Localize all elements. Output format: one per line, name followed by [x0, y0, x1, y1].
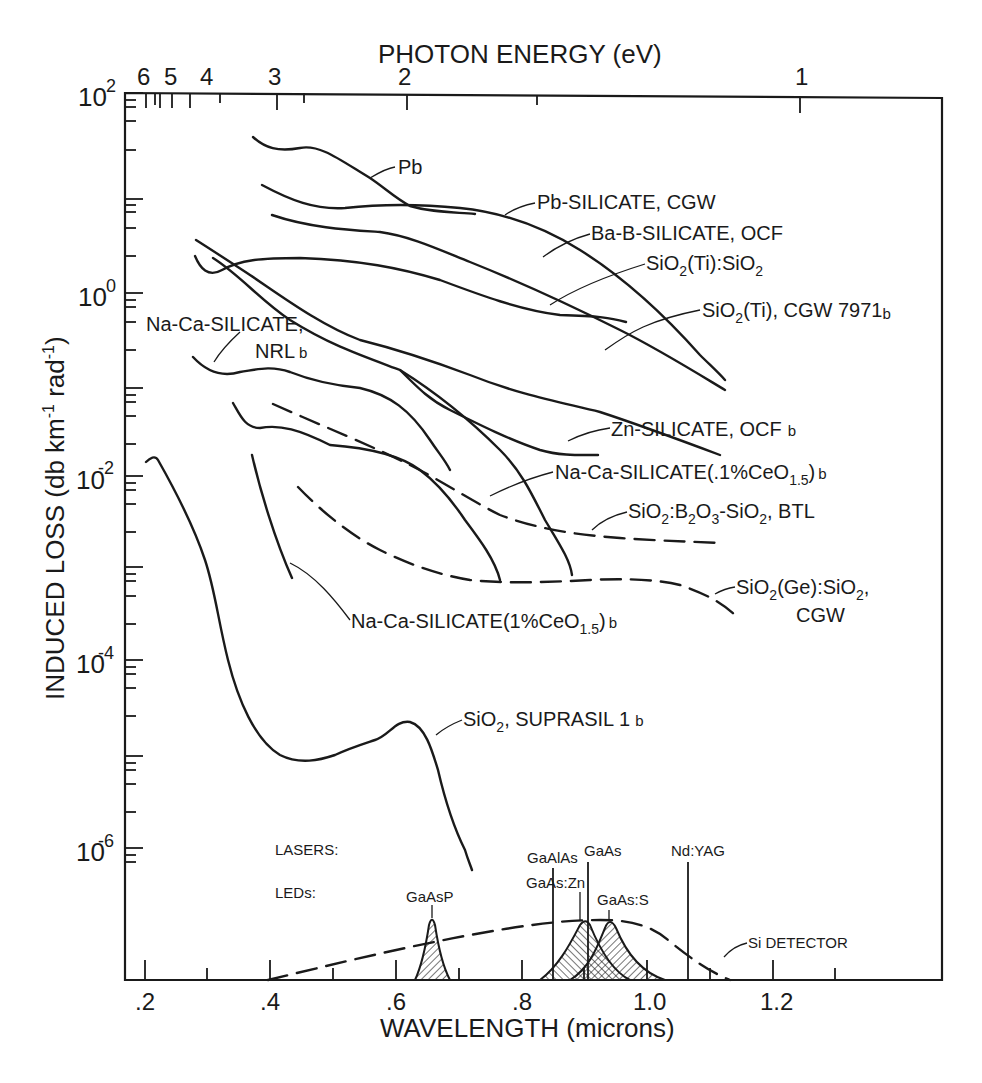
curve-suprasil	[146, 457, 472, 870]
curve-pb	[253, 137, 475, 214]
induced-loss-chart: PHOTON ENERGY (eV) 6 5 4 3 2 1	[0, 0, 982, 1083]
ndyag-label: Nd:YAG	[671, 842, 725, 859]
label-pb-silicate: Pb-SILICATE, CGW	[537, 191, 716, 213]
y-tick-1e-4: 10 -4	[76, 643, 114, 679]
x-tick-0.6: .6	[386, 988, 406, 1015]
chart-canvas: PHOTON ENERGY (eV) 6 5 4 3 2 1	[0, 0, 982, 1083]
si-detector-curve	[268, 920, 730, 980]
y-tick-1e-2: 10 -2	[76, 458, 114, 495]
svg-text:-4: -4	[98, 643, 114, 663]
label-naca-nrl-line1: Na-Ca-SILICATE,	[146, 313, 303, 335]
label-suprasil: SiO2, SUPRASIL 1b	[463, 708, 643, 735]
label-ba-b-silicate: Ba-B-SILICATE, OCF	[591, 222, 783, 244]
label-btl: SiO2:B2O3-SiO2, BTL	[628, 500, 815, 527]
svg-text:0: 0	[106, 276, 116, 296]
label-sio2ti-sio2: SiO2(Ti):SiO2	[646, 252, 763, 279]
curve-naca-1	[252, 455, 292, 578]
energy-tick-6: 6	[137, 63, 150, 90]
x-tick-0.8: .8	[512, 988, 532, 1015]
gaasp-peak	[415, 920, 450, 980]
energy-tick-1: 1	[795, 63, 808, 90]
source-annotations: LASERS: LEDs: Si DETECTOR GaAsP GaAs:Zn …	[268, 841, 848, 980]
left-axis: 10 2 10 0 10 -2 10 -4 10 -6 INDUCED LOSS…	[40, 76, 143, 867]
label-pb: Pb	[398, 156, 422, 178]
x-tick-1.2: 1.2	[760, 988, 793, 1015]
leds-label: LEDs:	[275, 884, 316, 901]
curve-naca-01	[233, 403, 500, 580]
gaaszn-label: GaAs:Zn	[526, 874, 585, 891]
curve-naca-nrl	[193, 357, 450, 470]
top-axis: PHOTON ENERGY (eV) 6 5 4 3 2 1	[137, 39, 808, 113]
gaas-label: GaAs	[584, 842, 622, 859]
x-tick-0.2: .2	[135, 988, 155, 1015]
si-detector-label: Si DETECTOR	[748, 934, 848, 951]
y-axis-title: INDUCED LOSS (db km-1 rad-1)	[40, 336, 70, 700]
svg-text:-2: -2	[98, 458, 114, 478]
energy-tick-2: 2	[398, 63, 411, 90]
y-tick-1e2: 10 2	[78, 76, 116, 112]
left-axis-ticks	[125, 93, 143, 862]
svg-text:-6: -6	[98, 831, 114, 851]
gaasp-label: GaAsP	[406, 888, 454, 905]
label-naca-01: Na-Ca-SILICATE(.1%CeO1.5)b	[555, 461, 827, 488]
svg-text:10: 10	[78, 82, 107, 112]
gaass-label: GaAs:S	[597, 891, 649, 908]
gaalas-label: GaAlAs	[527, 849, 578, 866]
energy-tick-3: 3	[268, 63, 281, 90]
svg-text:10: 10	[78, 282, 107, 312]
x-tick-1.0: 1.0	[633, 988, 666, 1015]
energy-tick-4: 4	[200, 63, 213, 90]
label-ge-line1: SiO2(Ge):SiO2,	[736, 576, 869, 603]
top-axis-title: PHOTON ENERGY (eV)	[378, 39, 662, 69]
energy-tick-5: 5	[164, 63, 177, 90]
lasers-label: LASERS:	[275, 841, 338, 858]
curve-labels: Pb Pb-SILICATE, CGW Ba-B-SILICATE, OCF S…	[146, 156, 891, 735]
x-axis-title: WAVELENGTH (microns)	[380, 1013, 675, 1043]
y-tick-1e-6: 10 -6	[76, 831, 114, 867]
label-naca-nrl-line2: NRLb	[255, 340, 307, 362]
bottom-axis-ticks	[145, 960, 835, 980]
y-tick-1e0: 10 0	[78, 276, 116, 312]
svg-text:2: 2	[106, 76, 116, 96]
label-sio2ti-cgw: SiO2(Ti), CGW 7971b	[702, 299, 891, 326]
bottom-axis: .2 .4 .6 .8 1.0 1.2 WAVELENGTH (microns)	[135, 960, 835, 1043]
label-ge-line2: CGW	[796, 604, 845, 626]
label-zn-silicate: Zn-SILICATE, OCFb	[611, 418, 796, 440]
x-tick-0.4: .4	[260, 988, 280, 1015]
curve-pb-silicate	[262, 185, 725, 380]
label-naca-1: Na-Ca-SILICATE(1%CeO1.5)b	[351, 610, 617, 637]
